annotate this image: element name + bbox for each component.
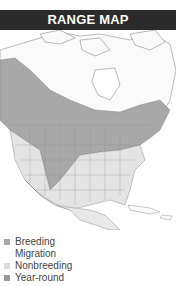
legend-label: Migration (15, 248, 56, 260)
legend-item-breeding: Breeding (4, 236, 72, 248)
range-map-header: RANGE MAP (0, 10, 176, 30)
legend-label: Breeding (15, 236, 55, 248)
legend-label: Year-round (15, 272, 64, 284)
range-map-legend: Breeding Migration Nonbreeding Year-roun… (4, 236, 72, 284)
breeding-swatch-icon (4, 239, 10, 245)
legend-label: Nonbreeding (15, 260, 72, 272)
year-round-swatch-icon (4, 275, 10, 281)
nonbreeding-swatch-icon (4, 263, 10, 269)
migration-swatch-icon (4, 251, 10, 257)
legend-item-nonbreeding: Nonbreeding (4, 260, 72, 272)
range-map-title: RANGE MAP (47, 12, 128, 27)
legend-item-year-round: Year-round (4, 272, 72, 284)
north-america-range-map (0, 30, 176, 230)
legend-item-migration: Migration (4, 248, 72, 260)
